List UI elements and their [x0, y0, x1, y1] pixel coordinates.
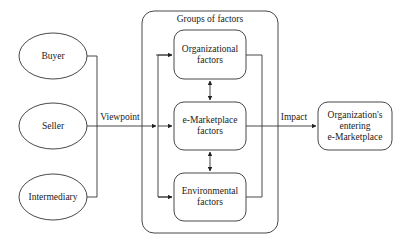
outcome-line1: Organization's — [328, 110, 383, 121]
impact-edge-label: Impact — [276, 112, 312, 123]
outcome-line3: e-Marketplace — [328, 132, 383, 143]
emarketplace-factors-line1: e-Marketplace — [183, 115, 238, 126]
environmental-factors-node: Environmental factors — [174, 173, 246, 221]
organizational-factors-node: Organizational factors — [174, 30, 246, 79]
group-title: Groups of factors — [142, 14, 278, 25]
viewpoint-bracket — [87, 56, 97, 197]
seller-node: Seller — [19, 103, 87, 149]
buyer-node: Buyer — [19, 33, 87, 79]
seller-label: Seller — [42, 121, 64, 132]
outcome-line2: entering — [339, 121, 370, 132]
emarketplace-factors-node: e-Marketplace factors — [174, 102, 246, 150]
intermediary-node: Intermediary — [19, 174, 87, 220]
intermediary-label: Intermediary — [28, 192, 77, 203]
buyer-label: Buyer — [41, 51, 64, 62]
outcome-node: Organization's entering e-Marketplace — [318, 102, 392, 150]
organizational-factors-line1: Organizational — [182, 44, 238, 55]
emarketplace-factors-line2: factors — [197, 126, 223, 137]
environmental-factors-line1: Environmental — [182, 186, 238, 197]
organizational-factors-line2: factors — [197, 55, 223, 66]
environmental-factors-line2: factors — [197, 197, 223, 208]
viewpoint-edge-label: Viewpoint — [98, 112, 142, 123]
